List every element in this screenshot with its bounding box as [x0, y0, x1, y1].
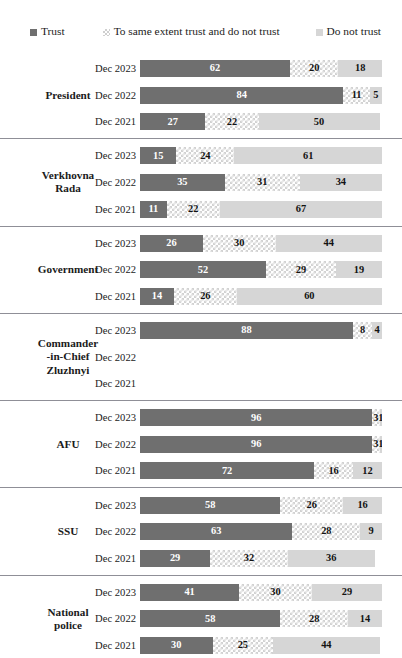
- stacked-bar: 622018: [140, 60, 382, 77]
- bar-segment-trust: 29: [140, 550, 210, 567]
- row-period-label: Dec 2022: [88, 177, 136, 188]
- stacked-bar: 293236: [140, 550, 382, 567]
- bar-segment-trust: 63: [140, 523, 292, 540]
- bar-segment-value: 19: [354, 265, 364, 275]
- chart-row: Dec 2022: [140, 344, 402, 371]
- bar-segment-value: 22: [227, 117, 237, 127]
- stacked-bar: 9631: [140, 409, 382, 426]
- chart-row: Dec 2021302544: [140, 632, 402, 658]
- bar-segment-value: 29: [342, 587, 352, 597]
- group-rows: Dec 2023152461Dec 2022353134Dec 20211122…: [140, 139, 402, 225]
- stacked-bar: [140, 349, 382, 366]
- stacked-bar: 721612: [140, 462, 382, 479]
- mixed-swatch-icon: [103, 29, 110, 36]
- stacked-bar: 84115: [140, 87, 382, 104]
- bar-segment-value: 14: [152, 291, 162, 301]
- legend-item-label: Trust: [41, 26, 65, 37]
- chart-row: Dec 202263289: [140, 518, 402, 545]
- bar-segment-value: 16: [328, 466, 338, 476]
- notrust-swatch-icon: [316, 29, 323, 36]
- bar-segment-trust: 62: [140, 60, 290, 77]
- group-rows: Dec 2023622018Dec 202284115Dec 202127225…: [140, 52, 402, 138]
- bar-segment-notrust: 16: [343, 497, 382, 514]
- bar-segment-trust: 15: [140, 147, 176, 164]
- group-rows: Dec 2023263044Dec 2022522919Dec 20211426…: [140, 227, 402, 313]
- row-period-label: Dec 2021: [88, 291, 136, 302]
- bar-segment-mixed: 22: [167, 201, 220, 218]
- bar-segment-value: 88: [241, 325, 251, 335]
- bar-segment-value: 96: [251, 439, 261, 449]
- bar-segment-value: 63: [211, 526, 221, 536]
- bar-segment-mixed: 20: [290, 60, 338, 77]
- legend-item-notrust: Do not trust: [316, 26, 381, 37]
- row-period-label: Dec 2022: [88, 352, 136, 363]
- group-rows: Dec 20238884Dec 2022Dec 2021: [140, 314, 402, 400]
- group-rows: Dec 2023413029Dec 2022582814Dec 20213025…: [140, 576, 402, 658]
- chart-group: VerkhovnaRadaDec 2023152461Dec 202235313…: [0, 138, 402, 225]
- chart-row: Dec 2023263044: [140, 230, 402, 257]
- row-period-label: Dec 2022: [88, 526, 136, 537]
- bar-segment-value: 4: [375, 325, 380, 335]
- chart-row: Dec 2023622018: [140, 55, 402, 82]
- row-period-label: Dec 2022: [88, 613, 136, 624]
- chart-row: Dec 2021293236: [140, 545, 402, 572]
- bar-segment-mixed: 31: [225, 174, 300, 191]
- group-category-label-line: SSU: [58, 525, 79, 538]
- bar-segment-value: 28: [309, 614, 319, 624]
- row-period-label: Dec 2021: [88, 378, 136, 389]
- bar-segment-mixed: 29: [266, 261, 336, 278]
- chart-row: Dec 2021112267: [140, 196, 402, 223]
- bar-segment-value: 16: [357, 500, 367, 510]
- bar-segment-value: 1: [378, 439, 382, 449]
- legend-item-mixed: To same extent trust and do not trust: [103, 26, 280, 37]
- bar-segment-trust: 35: [140, 174, 225, 191]
- bar-segment-notrust: 1: [380, 436, 382, 453]
- row-period-label: Dec 2023: [88, 63, 136, 74]
- chart-row: Dec 2023582616: [140, 492, 402, 519]
- bar-segment-mixed: 25: [213, 637, 274, 654]
- bar-segment-value: 34: [336, 177, 346, 187]
- bar-segment-trust: 84: [140, 87, 343, 104]
- bar-segment-value: 29: [170, 553, 180, 563]
- bar-segment-value: 15: [153, 151, 163, 161]
- bar-segment-value: 58: [205, 500, 215, 510]
- stacked-bar: 582814: [140, 610, 382, 627]
- row-period-label: Dec 2021: [88, 465, 136, 476]
- bar-segment-value: 24: [200, 151, 210, 161]
- legend-item-label: To same extent trust and do not trust: [114, 26, 280, 37]
- bar-segment-value: 36: [326, 553, 336, 563]
- bar-segment-value: 32: [244, 553, 254, 563]
- chart-group: SSUDec 2023582616Dec 202263289Dec 202129…: [0, 487, 402, 574]
- bar-segment-value: 35: [177, 177, 187, 187]
- bar-segment-notrust: 5: [370, 87, 382, 104]
- bar-segment-value: 31: [257, 177, 267, 187]
- bar-segment-mixed: 24: [176, 147, 234, 164]
- bar-segment-trust: 11: [140, 201, 167, 218]
- bar-segment-value: 29: [296, 265, 306, 275]
- bar-segment-value: 58: [205, 614, 215, 624]
- bar-segment-trust: 96: [140, 409, 372, 426]
- chart-row: Dec 2022522919: [140, 256, 402, 283]
- bar-segment-trust: 27: [140, 113, 205, 130]
- bar-segment-trust: 88: [140, 322, 353, 339]
- row-period-label: Dec 2021: [88, 553, 136, 564]
- chart-group: Commander-in-ChiefZluzhnyiDec 20238884De…: [0, 313, 402, 400]
- stacked-bar: 582616: [140, 497, 382, 514]
- row-period-label: Dec 2023: [88, 238, 136, 249]
- bar-segment-notrust: 9: [360, 523, 382, 540]
- bar-segment-value: 11: [352, 90, 362, 100]
- chart-row: Dec 20239631: [140, 404, 402, 431]
- bar-segment-value: 1: [378, 413, 382, 423]
- group-rows: Dec 20239631Dec 20229631Dec 2021721612: [140, 401, 402, 487]
- bar-segment-trust: 72: [140, 462, 314, 479]
- bar-segment-value: 20: [309, 63, 319, 73]
- bar-segment-value: 96: [251, 413, 261, 423]
- bar-segment-value: 84: [236, 90, 246, 100]
- bar-segment-value: 41: [184, 587, 194, 597]
- group-rows: Dec 2023582616Dec 202263289Dec 202129323…: [140, 488, 402, 574]
- bar-segment-mixed: 16: [314, 462, 353, 479]
- bar-segment-mixed: 22: [205, 113, 258, 130]
- chart-row: Dec 2021142660: [140, 283, 402, 310]
- group-category-label-line: Zluzhnyi: [38, 364, 98, 377]
- row-period-label: Dec 2021: [88, 640, 136, 651]
